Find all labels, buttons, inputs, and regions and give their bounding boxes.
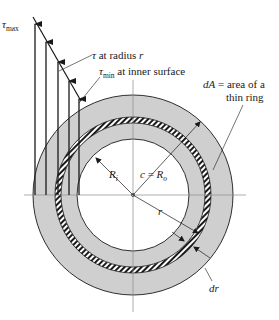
stress-envelope-line <box>33 17 81 101</box>
dr-label: dr <box>209 282 220 294</box>
dA-label-line1: dA = area of a <box>203 78 265 90</box>
leader-dr <box>205 268 212 281</box>
hollow-shaft-torsion-diagram: τmax τ at radius r τmin at inner surface… <box>0 0 279 320</box>
tau-at-radius-label: τ at radius r <box>92 49 144 61</box>
r-label: r <box>158 205 163 217</box>
dA-label-line2: thin ring <box>226 91 264 103</box>
leader-tau-min <box>79 77 100 103</box>
leader-tau-r <box>59 55 92 71</box>
tau-max-label: τmax <box>2 18 19 33</box>
leader-dA <box>213 105 243 170</box>
tau-min-label: τmin at inner surface <box>99 65 185 80</box>
